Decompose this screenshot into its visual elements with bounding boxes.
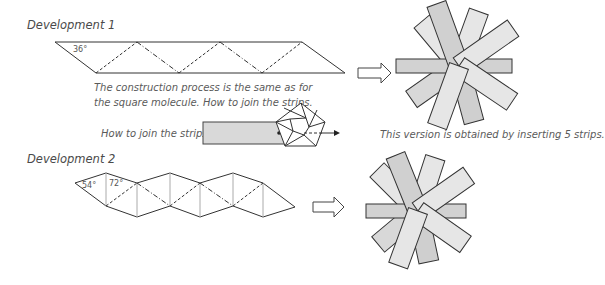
angle-36: 36° — [73, 45, 87, 54]
arrow-right-icon — [313, 197, 344, 217]
assembled-molecule-1 — [396, 1, 519, 130]
angle-54: 54° — [82, 181, 96, 190]
arrow-right-icon — [358, 63, 391, 83]
strip-rectangle — [203, 122, 289, 144]
development-2-net — [75, 173, 295, 217]
assembled-molecule-2 — [366, 152, 475, 269]
development-1-net — [55, 42, 345, 73]
angle-72: 72° — [109, 179, 123, 188]
pentagon-join-diagram — [276, 103, 325, 146]
